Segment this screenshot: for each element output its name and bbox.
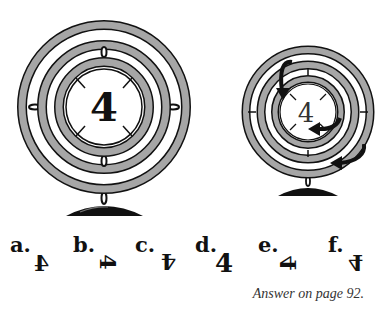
option-d-glyph: 4: [215, 250, 233, 276]
option-c-label: c.: [135, 232, 155, 257]
left-pivot-top: [102, 47, 107, 57]
option-f-label: f.: [328, 232, 344, 257]
option-b-label: b.: [73, 232, 95, 257]
left-gyroscope: 4: [22, 25, 186, 216]
answer-note: Answer on page 92.: [253, 286, 364, 302]
option-e-label: e.: [258, 232, 279, 257]
gyroscope-figure: 4 4: [0, 0, 386, 230]
option-a-label: a.: [10, 232, 31, 257]
option-b-glyph: 4: [97, 254, 119, 269]
option-a-glyph: 4: [34, 252, 49, 274]
option-e-glyph: 4: [277, 255, 299, 270]
option-c-glyph: 4: [161, 251, 176, 273]
right-gyroscope: 4: [246, 50, 370, 196]
right-center-digit: 4: [298, 98, 315, 128]
option-d-label: d.: [195, 232, 217, 257]
left-center-digit: 4: [90, 83, 118, 130]
option-f-glyph: 4: [348, 252, 363, 274]
left-stand-base: [66, 206, 143, 216]
right-stand-base: [278, 188, 338, 196]
left-pivot-bottom: [102, 156, 107, 166]
